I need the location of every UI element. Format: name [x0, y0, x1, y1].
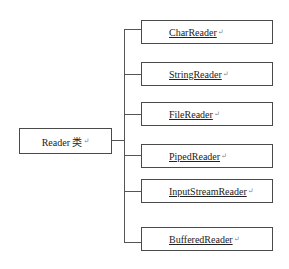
inputstreamreader-node: InputStreamReader ↵: [141, 179, 273, 203]
paragraph-mark-icon: ↵: [248, 187, 254, 195]
node-label: BufferedReader: [169, 234, 233, 245]
node-label: Reader 类: [42, 134, 83, 149]
root-connector: [112, 140, 124, 141]
paragraph-mark-icon: ↵: [221, 152, 227, 160]
branch-pipedreader: [124, 155, 141, 156]
branch-charreader: [124, 29, 141, 30]
paragraph-mark-icon: ↵: [223, 70, 229, 78]
node-label: PipedReader: [169, 151, 220, 162]
filereader-node: FileReader ↵: [141, 102, 273, 126]
paragraph-mark-icon: ↵: [218, 28, 224, 36]
paragraph-mark-icon: ↵: [214, 110, 220, 118]
node-label: FileReader: [169, 109, 213, 120]
paragraph-mark-icon: ↵: [234, 235, 240, 243]
branch-filereader: [124, 114, 141, 115]
pipedreader-node: PipedReader ↵: [141, 144, 273, 168]
branch-bufferedreader: [124, 242, 141, 243]
branch-stringreader: [124, 74, 141, 75]
node-label: StringReader: [169, 69, 222, 80]
charreader-node: CharReader ↵: [141, 20, 273, 44]
branch-inputstreamreader: [124, 191, 141, 192]
node-label: CharReader: [169, 27, 217, 38]
reader-class-node: Reader 类 ↵: [19, 128, 112, 154]
trunk-line: [124, 29, 125, 243]
bufferedreader-node: BufferedReader ↵: [141, 227, 273, 251]
node-label: InputStreamReader: [169, 186, 247, 197]
paragraph-mark-icon: ↵: [83, 137, 89, 145]
stringreader-node: StringReader ↵: [141, 62, 273, 86]
